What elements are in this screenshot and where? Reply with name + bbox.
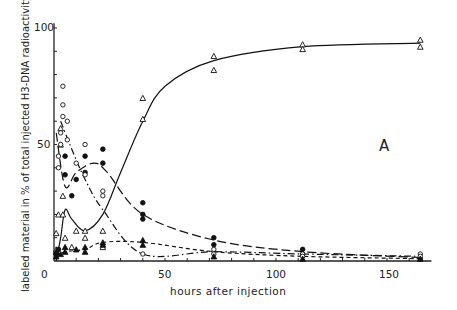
data-point-open-triangle: [60, 193, 66, 198]
data-point-filled-circle: [69, 193, 74, 198]
data-point-open-circle: [56, 166, 60, 170]
data-point-open-triangle: [62, 235, 68, 240]
data-point-open-triangle: [73, 228, 79, 233]
data-point-filled-circle: [141, 217, 146, 222]
series-lines: [56, 43, 420, 261]
data-point-open-circle: [83, 142, 87, 146]
x-tick-label-100: 100: [266, 268, 286, 280]
y-axis-label: labeled material in % of total injected …: [20, 0, 31, 292]
data-point-filled-circle: [63, 154, 68, 159]
data-point-filled-circle: [212, 242, 217, 247]
data-point-open-triangle: [418, 44, 424, 49]
axes: [54, 23, 431, 261]
data-point-filled-circle: [101, 161, 106, 166]
y-tick-label-100: 100: [34, 21, 54, 33]
data-point-open-circle: [101, 189, 105, 193]
x-tick-label-0: 0: [41, 268, 48, 280]
data-point-open-circle: [212, 247, 216, 251]
data-point-open-circle: [56, 154, 60, 158]
data-point-open-circle: [65, 119, 69, 123]
data-point-open-circle: [58, 131, 62, 135]
data-point-open-circle: [61, 103, 65, 107]
data-point-open-triangle: [100, 228, 106, 233]
data-point-filled-circle: [212, 235, 217, 240]
data-point-open-circle: [101, 194, 105, 198]
data-point-open-triangle: [418, 37, 424, 42]
data-point-filled-circle: [83, 154, 88, 159]
data-point-open-triangle: [69, 244, 75, 249]
data-point-open-circle: [74, 161, 78, 165]
data-point-open-circle: [61, 84, 65, 88]
data-point-open-triangle: [82, 235, 88, 240]
y-tick-label-50: 50: [37, 138, 50, 150]
data-point-open-circle: [141, 252, 145, 256]
data-point-open-triangle: [60, 212, 66, 217]
data-point-filled-circle: [74, 177, 79, 182]
data-point-filled-circle: [141, 212, 146, 217]
series-line-filled-circle: [56, 133, 420, 258]
panel-label: A: [379, 137, 389, 155]
chart-plot: [0, 0, 457, 310]
data-point-open-circle: [65, 138, 69, 142]
data-point-open-triangle: [211, 53, 217, 58]
data-point-filled-circle: [300, 247, 305, 252]
series-markers: [53, 37, 423, 261]
data-point-open-triangle: [211, 67, 217, 72]
data-point-open-triangle: [140, 95, 146, 100]
data-point-filled-circle: [141, 200, 146, 205]
x-tick-label-150: 150: [379, 268, 399, 280]
x-axis-label: hours after injection: [170, 285, 286, 297]
data-point-open-circle: [83, 173, 87, 177]
series-line-filled-triangle: [56, 241, 420, 258]
data-point-filled-triangle: [62, 244, 68, 249]
data-point-filled-circle: [101, 147, 106, 152]
data-point-open-circle: [58, 142, 62, 146]
data-point-filled-circle: [63, 172, 68, 177]
data-point-open-circle: [61, 114, 65, 118]
series-line-open-triangle: [56, 43, 420, 261]
x-tick-label-50: 50: [158, 268, 171, 280]
